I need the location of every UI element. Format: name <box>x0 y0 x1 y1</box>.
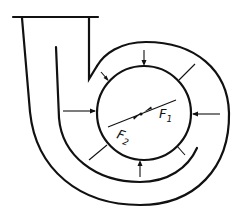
arrow-left <box>63 109 96 114</box>
volute-outer-wall <box>22 18 229 205</box>
volute-inner-wall <box>56 47 197 182</box>
arrow-top <box>142 50 147 66</box>
arrow-bottom-left <box>89 145 107 160</box>
volute-diagram: F1 F2 <box>0 0 246 215</box>
label-f2: F2 <box>114 127 132 148</box>
arrow-top-left <box>101 72 109 81</box>
arrow-bottom <box>138 160 143 177</box>
arrow-bottom-right <box>177 146 185 155</box>
center-point <box>139 112 142 115</box>
label-f1: F1 <box>159 106 172 124</box>
discharge-inner-wall <box>89 18 97 79</box>
arrow-right <box>192 112 220 117</box>
arrow-top-right <box>179 64 195 80</box>
